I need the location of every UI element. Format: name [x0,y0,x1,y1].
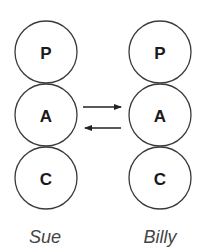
sue-child-state: C [15,147,77,209]
sue-child-label: C [40,170,52,189]
sue-ego-states: P A C Sue [15,21,77,247]
billy-adult-state: A [129,84,191,146]
billy-child-label: C [154,170,166,189]
billy-ego-states: P A C Billy [129,21,191,247]
billy-child-state: C [129,147,191,209]
billy-parent-state: P [129,21,191,83]
billy-parent-label: P [154,44,165,63]
sue-adult-label: A [40,107,52,126]
sue-adult-state: A [15,84,77,146]
sue-parent-label: P [40,44,51,63]
ego-state-diagram: P A C Sue P A C Billy [0,0,207,252]
billy-adult-label: A [154,107,166,126]
sue-parent-state: P [15,21,77,83]
billy-name-label: Billy [143,227,177,247]
sue-name-label: Sue [29,227,61,247]
